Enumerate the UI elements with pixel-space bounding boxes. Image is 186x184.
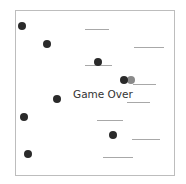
platform: [103, 157, 133, 158]
ball: [53, 95, 61, 103]
ball: [43, 40, 51, 48]
platform: [134, 47, 164, 48]
platform: [97, 120, 123, 121]
platform: [133, 84, 156, 85]
platform: [127, 102, 150, 103]
ball: [120, 76, 128, 84]
platform: [85, 29, 109, 30]
ball: [109, 131, 117, 139]
ghost-ball: [127, 76, 135, 84]
ball: [24, 150, 32, 158]
platform: [132, 139, 160, 140]
game-over-message: Game Over: [73, 88, 133, 100]
ball: [20, 113, 28, 121]
ball: [94, 58, 102, 66]
ball: [18, 22, 26, 30]
